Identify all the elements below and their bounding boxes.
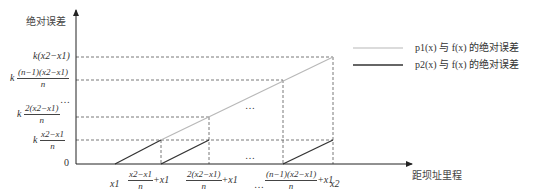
x-tick-x1: x1 <box>110 179 119 189</box>
ellipsis-lower: … <box>245 151 255 161</box>
dashed-guides <box>76 57 333 164</box>
p2-error-sawtooth <box>115 140 333 164</box>
x-tick-ellipsis: … <box>254 180 264 190</box>
x-tick-1: x2−x1n+x1 <box>128 170 169 191</box>
error-diagram <box>0 0 534 196</box>
p1-error-line <box>161 57 333 140</box>
y-tick-1: k x2−x1n <box>33 130 65 151</box>
x-tick-2: 2(x2−x1)n+x1 <box>186 170 238 191</box>
y-tick-k-x2-x1: k(x2−x1) <box>33 51 70 61</box>
legend-item-p1: p1(x) 与 f(x) 的绝对误差 <box>415 43 519 53</box>
x-tick-n-minus-1: (n−1)(x2−x1)n+x1 <box>265 170 333 191</box>
x-axis-title: 距坝址里程 <box>412 171 462 181</box>
legend-item-p2: p2(x) 与 f(x) 的绝对误差 <box>415 60 519 70</box>
x-tick-x2: x2 <box>330 179 339 189</box>
y-tick-n-minus-1: k (n−1)(x2−x1)n <box>10 68 69 89</box>
ellipsis-upper: … <box>245 101 255 111</box>
y-tick-2: k 2(x2−x1)n <box>17 104 60 125</box>
y-axis-title: 绝对误差 <box>26 17 66 27</box>
origin-label: 0 <box>64 158 69 168</box>
y-tick-ellipsis: … <box>60 95 70 105</box>
